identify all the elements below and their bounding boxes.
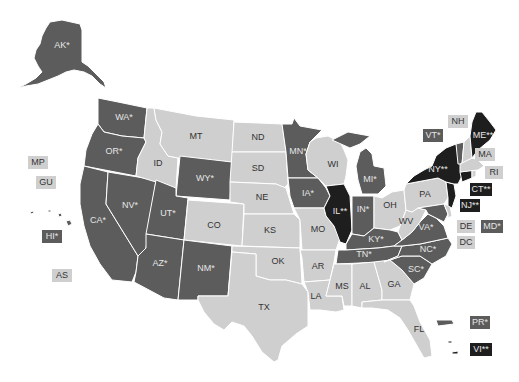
state-label-wv: WV — [399, 216, 414, 226]
state-label-co: CO — [207, 220, 221, 230]
state-ak[interactable]: AK* — [18, 20, 106, 88]
callout-box-label: MP — [31, 157, 45, 167]
callout-box-gu[interactable]: GU — [36, 176, 56, 189]
callout-box-label: MD* — [483, 221, 501, 231]
state-wy[interactable]: WY* — [176, 156, 232, 200]
state-label-ga: GA — [387, 279, 400, 289]
state-label-ks: KS — [264, 225, 276, 235]
callout-box-as[interactable]: AS — [52, 269, 72, 282]
state-label-id: ID — [154, 158, 164, 168]
state-label-ms: MS — [335, 281, 349, 291]
state-label-wi: WI — [328, 159, 339, 169]
callout-box-label: MA — [478, 149, 492, 159]
state-nj[interactable] — [446, 182, 456, 208]
callout-box-label: VT* — [425, 130, 441, 140]
state-co[interactable]: CO — [184, 200, 244, 246]
callout-box-label: DE — [460, 221, 473, 231]
callout-box-label: PR* — [472, 317, 489, 327]
state-label-mo: MO — [311, 224, 326, 234]
callout-box-md[interactable]: MD* — [481, 220, 503, 233]
state-label-ne: NE — [256, 192, 269, 202]
callout-box-ri[interactable]: RI — [485, 166, 503, 179]
island-pr[interactable] — [436, 320, 454, 326]
callout-box-label: NJ** — [461, 200, 480, 210]
state-ri[interactable] — [472, 170, 476, 178]
state-label-nm: NM* — [197, 263, 215, 273]
state-mt[interactable]: MT — [154, 108, 234, 162]
state-label-ky: KY* — [368, 234, 384, 244]
callout-box-label: AS — [56, 270, 68, 280]
state-label-ak: AK* — [54, 40, 70, 50]
state-label-ok: OK — [271, 256, 284, 266]
state-label-va: VA* — [419, 222, 434, 232]
state-fl[interactable]: FL — [362, 300, 432, 358]
state-label-ut: UT* — [160, 208, 176, 218]
state-label-me: ME** — [473, 130, 494, 140]
callout-box-dc[interactable]: DC — [457, 236, 475, 249]
state-label-al: AL — [359, 281, 370, 291]
state-label-sc: SC* — [408, 264, 425, 274]
callout-box-hi[interactable]: HI* — [42, 230, 62, 243]
callout-box-ma[interactable]: MA — [475, 148, 495, 161]
state-label-tx: TX — [258, 302, 270, 312]
state-label-nv: NV* — [122, 200, 139, 210]
state-label-oh: OH — [383, 200, 397, 210]
callout-box-label: GU — [39, 177, 53, 187]
state-label-mt: MT — [190, 131, 203, 141]
state-label-sd: SD — [252, 163, 265, 173]
state-label-ar: AR — [312, 261, 325, 271]
island-vi[interactable] — [448, 341, 458, 354]
state-nm[interactable]: NM* — [178, 240, 232, 300]
state-label-or: OR* — [105, 146, 123, 156]
state-label-ia: IA* — [302, 188, 315, 198]
state-label-fl: FL — [414, 324, 425, 334]
state-label-mn: MN* — [289, 146, 307, 156]
state-label-mi: MI* — [363, 174, 377, 184]
state-label-pa: PA — [419, 189, 430, 199]
state-ny[interactable]: NY** — [406, 144, 462, 184]
state-label-wy: WY* — [196, 173, 214, 183]
callout-box-nh[interactable]: NH — [448, 115, 468, 128]
state-label-nd: ND — [252, 132, 265, 142]
callout-box-de[interactable]: DE — [457, 220, 475, 233]
callout-box-pr[interactable]: PR* — [470, 316, 490, 329]
state-label-la: LA — [310, 291, 321, 301]
state-label-nc: NC* — [420, 244, 437, 254]
state-label-ca: CA* — [90, 215, 107, 225]
callout-box-nj[interactable]: NJ** — [460, 199, 480, 212]
state-nd[interactable]: ND — [232, 122, 286, 152]
state-label-tn: TN* — [356, 249, 372, 259]
state-label-wa: WA* — [115, 112, 133, 122]
state-label-ny: NY** — [428, 164, 448, 174]
callout-box-vt[interactable]: VT* — [423, 129, 443, 142]
callout-box-label: CT** — [471, 184, 490, 194]
state-label-il: IL** — [333, 206, 348, 216]
callout-box-label: VI** — [473, 344, 489, 354]
callout-box-vi[interactable]: VI** — [470, 343, 492, 356]
callout-box-label: NH — [452, 116, 465, 126]
state-label-in: IN* — [357, 204, 370, 214]
callout-box-ct[interactable]: CT** — [470, 183, 492, 196]
state-label-az: AZ* — [152, 258, 168, 268]
callout-box-label: RI — [490, 167, 499, 177]
state-hi[interactable] — [30, 210, 72, 226]
state-ks[interactable]: KS — [242, 214, 300, 248]
us-choropleth-map: AK* WA* OR* CA* NV* ID MT WY* UT* AZ* CO — [0, 0, 519, 382]
callout-box-label: HI* — [46, 231, 59, 241]
callout-box-mp[interactable]: MP — [28, 156, 48, 169]
callout-box-label: DC — [460, 237, 473, 247]
